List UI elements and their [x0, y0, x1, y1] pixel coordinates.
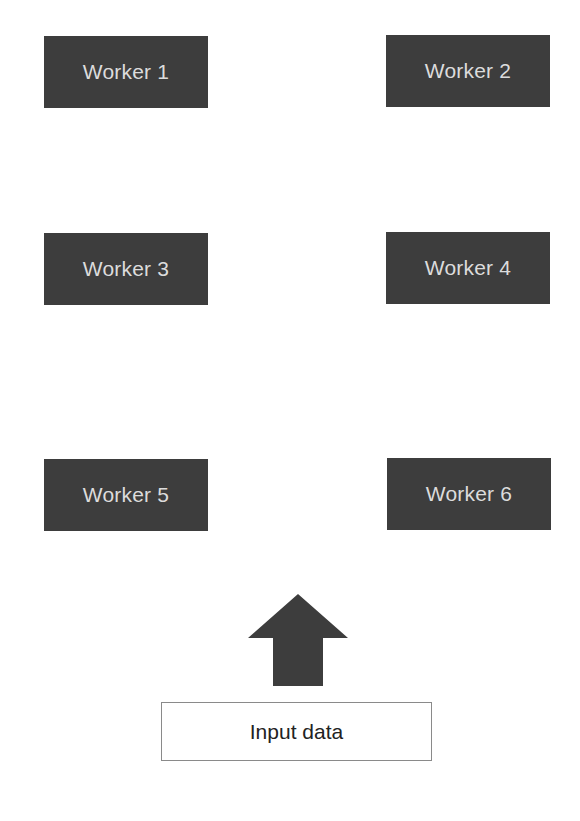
worker-1-label: Worker 1: [83, 60, 169, 84]
worker-3-node: Worker 3: [44, 233, 208, 305]
worker-2-node: Worker 2: [386, 35, 550, 107]
worker-4-node: Worker 4: [386, 232, 550, 304]
worker-4-label: Worker 4: [425, 256, 511, 280]
up-arrow-icon: [248, 594, 348, 686]
worker-3-label: Worker 3: [83, 257, 169, 281]
input-data-label: Input data: [250, 720, 343, 744]
worker-6-node: Worker 6: [387, 458, 551, 530]
worker-5-node: Worker 5: [44, 459, 208, 531]
input-data-node: Input data: [161, 702, 432, 761]
worker-6-label: Worker 6: [426, 482, 512, 506]
worker-2-label: Worker 2: [425, 59, 511, 83]
worker-1-node: Worker 1: [44, 36, 208, 108]
worker-5-label: Worker 5: [83, 483, 169, 507]
